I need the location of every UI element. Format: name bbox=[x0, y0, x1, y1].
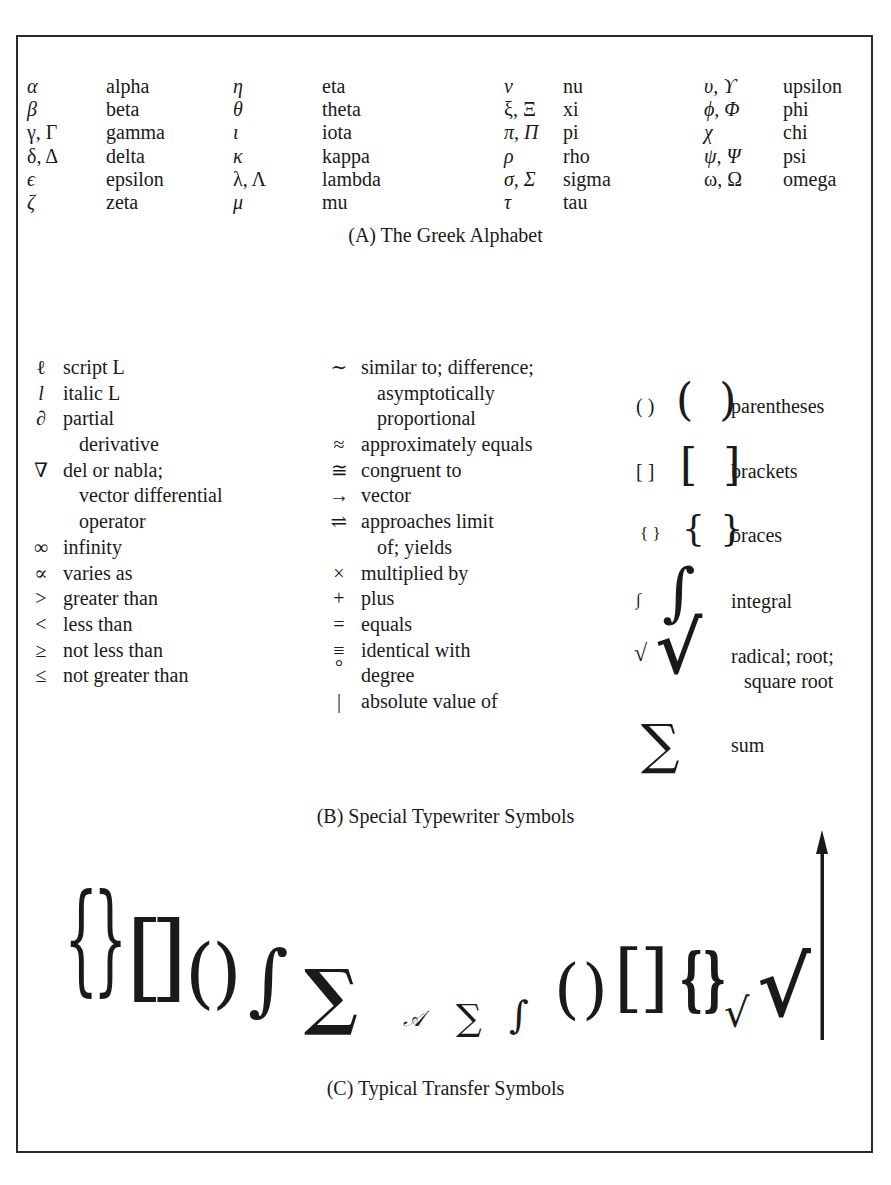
greek-symbol: ι bbox=[233, 121, 239, 144]
greek-symbol: κ bbox=[233, 145, 243, 168]
typewriter-symbols-left: ℓscript L litalic L ∂partial derivative … bbox=[27, 355, 307, 689]
multiply-icon: × bbox=[325, 561, 353, 587]
symbol-row: ∞infinity bbox=[27, 535, 307, 561]
less-equal-icon: ≤ bbox=[27, 663, 55, 689]
symbol-row: |absolute value of bbox=[325, 689, 615, 715]
greek-symbol: ρ bbox=[504, 145, 514, 168]
greek-symbol: η bbox=[233, 75, 243, 98]
small-sum-icon: ∑ bbox=[456, 1000, 482, 1036]
greek-name: chi bbox=[783, 121, 807, 144]
greek-column-3: νnu ξ, Ξxi π, Πpi ρrho σ, Σsigma τtau bbox=[504, 75, 538, 214]
large-sum-icon: ∑ bbox=[641, 718, 680, 772]
paren-right-icon: ) bbox=[212, 935, 242, 1011]
greek-row: ιiota bbox=[233, 121, 266, 144]
greek-symbol: ν bbox=[504, 75, 513, 98]
greek-name: xi bbox=[563, 98, 579, 121]
greek-symbol: β bbox=[27, 98, 37, 121]
equals-icon: = bbox=[325, 612, 353, 638]
symbol-row: litalic L bbox=[27, 381, 307, 407]
symbol-description: asymptotically bbox=[377, 381, 495, 407]
greek-name: theta bbox=[322, 98, 361, 121]
symbol-description: script L bbox=[63, 355, 125, 381]
less-than-icon: < bbox=[27, 612, 55, 638]
symbol-row: proportional bbox=[325, 406, 615, 432]
greater-than-icon: > bbox=[27, 586, 55, 612]
symbol-row: =equals bbox=[325, 612, 615, 638]
greek-name: psi bbox=[783, 145, 806, 168]
nabla-icon: ∇ bbox=[27, 458, 55, 484]
symbol-description: italic L bbox=[63, 381, 120, 407]
greek-row: ϕ, Φphi bbox=[704, 98, 742, 121]
greek-row: π, Πpi bbox=[504, 121, 538, 144]
symbol-row: derivative bbox=[27, 432, 307, 458]
greek-row: δ, Δdelta bbox=[27, 145, 58, 168]
greek-name: kappa bbox=[322, 145, 370, 168]
brackets-label: brackets bbox=[731, 460, 798, 483]
greek-row: λ, Λlambda bbox=[233, 168, 266, 191]
symbol-description: greater than bbox=[63, 586, 158, 612]
symbol-row: >greater than bbox=[27, 586, 307, 612]
symbol-row: operator bbox=[27, 509, 307, 535]
greek-name: beta bbox=[106, 98, 139, 121]
symbol-row: ≅congruent to bbox=[325, 458, 615, 484]
integral-label: integral bbox=[731, 590, 792, 613]
greek-symbol: ϵ bbox=[27, 168, 35, 191]
greek-name: sigma bbox=[563, 168, 611, 191]
greek-symbol: γ, Γ bbox=[27, 121, 57, 144]
braces-label: braces bbox=[731, 524, 782, 547]
approx-equal-icon: ≈ bbox=[325, 432, 353, 458]
greek-row: ϵepsilon bbox=[27, 168, 58, 191]
symbol-description: of; yields bbox=[377, 535, 452, 561]
greek-symbol: ϕ, Φ bbox=[704, 98, 740, 121]
sum-label: sum bbox=[731, 734, 764, 757]
small-parentheses-icon: ( ) bbox=[636, 395, 654, 418]
greek-symbol: ζ bbox=[27, 191, 35, 214]
greek-name: alpha bbox=[106, 75, 149, 98]
greek-symbol: ω, Ω bbox=[704, 168, 742, 191]
symbol-description: not greater than bbox=[63, 663, 189, 689]
arrow-right-icon: → bbox=[325, 483, 353, 509]
symbol-description: varies as bbox=[63, 561, 132, 587]
symbol-description: degree bbox=[361, 663, 414, 689]
symbol-row: ∼similar to; difference; bbox=[325, 355, 615, 381]
caption-transfer-symbols: (C) Typical Transfer Symbols bbox=[0, 1077, 891, 1100]
symbol-row: of; yields bbox=[325, 535, 615, 561]
degree-icon: ° bbox=[325, 655, 353, 681]
equilibrium-icon: ⇌ bbox=[325, 509, 353, 535]
greek-row: αalpha bbox=[27, 75, 58, 98]
greek-symbol: λ, Λ bbox=[233, 168, 266, 191]
congruent-icon: ≅ bbox=[325, 458, 353, 484]
symbol-row: asymptotically bbox=[325, 381, 615, 407]
symbol-row: <less than bbox=[27, 612, 307, 638]
symbol-description: approaches limit bbox=[361, 509, 494, 535]
symbol-description: del or nabla; bbox=[63, 458, 163, 484]
paren-left-icon: ( bbox=[185, 935, 215, 1011]
script-a-icon: 𝒜 bbox=[403, 1008, 424, 1030]
large-sum-icon: ∑ bbox=[304, 960, 358, 1032]
greek-row: θtheta bbox=[233, 98, 266, 121]
greek-row: τtau bbox=[504, 191, 538, 214]
greek-name: phi bbox=[783, 98, 809, 121]
script-l-icon: ℓ bbox=[27, 355, 55, 381]
greek-name: iota bbox=[322, 121, 352, 144]
symbol-row: ×multiplied by bbox=[325, 561, 615, 587]
greek-row: βbeta bbox=[27, 98, 58, 121]
greek-row: ζzeta bbox=[27, 191, 58, 214]
large-radical-icon: √ bbox=[655, 612, 702, 684]
symbol-row: ≤not greater than bbox=[27, 663, 307, 689]
varies-as-icon: ∝ bbox=[27, 561, 55, 587]
parentheses-label: parentheses bbox=[731, 395, 824, 418]
greek-symbol: α bbox=[27, 75, 38, 98]
integral-icon: ∫ bbox=[248, 940, 289, 1018]
typewriter-symbols-middle: ∼similar to; difference; asymptotically … bbox=[325, 355, 615, 715]
symbol-row: ∂partial bbox=[27, 406, 307, 432]
up-arrow-icon bbox=[814, 830, 830, 1040]
tall-brace-right-icon: } bbox=[93, 878, 127, 998]
symbol-description: plus bbox=[361, 586, 394, 612]
partial-icon: ∂ bbox=[27, 406, 55, 432]
brace-left-icon-2: { bbox=[679, 944, 704, 1014]
greek-row: ω, Ωomega bbox=[704, 168, 742, 191]
symbol-description: not less than bbox=[63, 638, 163, 664]
greek-symbol: π, Π bbox=[504, 121, 538, 144]
greek-row: νnu bbox=[504, 75, 538, 98]
